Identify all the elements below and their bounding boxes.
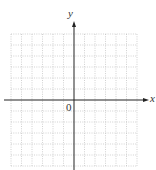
coordinate-plane [0,0,156,170]
y-axis [72,21,76,170]
x-axis [4,98,149,102]
origin-label: 0 [66,101,72,113]
x-axis-label: x [150,92,155,104]
y-axis-arrow-icon [72,21,76,27]
y-axis-label: y [68,7,73,19]
x-axis-arrow-icon [143,98,149,102]
